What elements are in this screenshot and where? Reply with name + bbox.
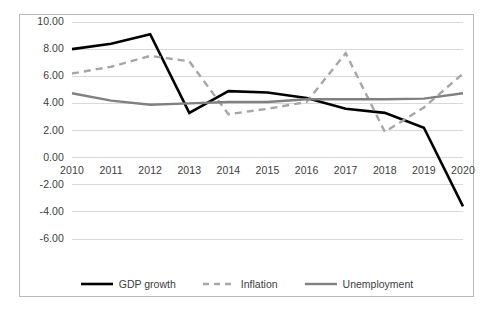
legend-item: GDP growth <box>80 278 176 290</box>
legend-label: GDP growth <box>119 278 176 290</box>
x-axis-tick-label: 2017 <box>329 164 363 176</box>
chart-plot-region: 10.008.006.004.002.000.00-2.00-4.00-6.00… <box>20 15 473 296</box>
y-axis-tick-label: 2.00 <box>20 124 64 136</box>
chart-frame: 10.008.006.004.002.000.00-2.00-4.00-6.00… <box>19 14 474 297</box>
y-axis-tick-label: 8.00 <box>20 42 64 54</box>
x-axis-tick-label: 2011 <box>94 164 128 176</box>
legend-label: Unemployment <box>343 278 414 290</box>
x-axis-tick-label: 2012 <box>133 164 167 176</box>
x-axis-tick-label: 2013 <box>172 164 206 176</box>
x-axis-tick-label: 2019 <box>407 164 441 176</box>
y-axis-tick-label: 0.00 <box>20 151 64 163</box>
y-axis-tick-label: 6.00 <box>20 69 64 81</box>
x-axis-tick-label: 2010 <box>55 164 89 176</box>
x-axis-tick-label: 2015 <box>251 164 285 176</box>
y-axis-tick-label: -4.00 <box>20 205 64 217</box>
x-axis-tick-label: 2018 <box>368 164 402 176</box>
x-axis-tick-label: 2016 <box>290 164 324 176</box>
line-dashed-gray-icon <box>202 279 236 289</box>
line-chart-svg <box>20 15 475 298</box>
y-axis-tick-label: -2.00 <box>20 178 64 190</box>
y-axis-tick-label: 4.00 <box>20 96 64 108</box>
legend-item: Inflation <box>202 278 278 290</box>
legend-item: Unemployment <box>304 278 414 290</box>
y-axis-tick-label: 10.00 <box>20 15 64 27</box>
y-axis-tick-label: -6.00 <box>20 232 64 244</box>
line-solid-gray-icon <box>304 279 338 289</box>
legend-label: Inflation <box>241 278 278 290</box>
chart-legend: GDP growthInflationUnemployment <box>20 278 473 290</box>
x-axis-tick-label: 2014 <box>211 164 245 176</box>
x-axis-tick-label: 2020 <box>446 164 480 176</box>
line-solid-black-icon <box>80 279 114 289</box>
